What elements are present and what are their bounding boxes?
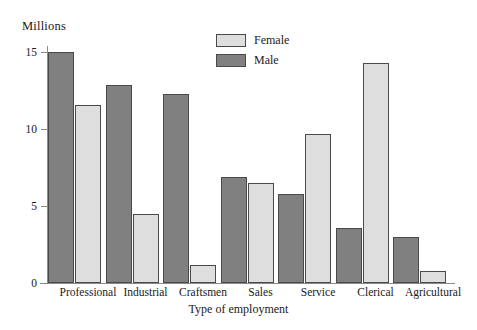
bar-group: Sales — [221, 40, 274, 283]
bar-male — [106, 85, 132, 283]
bar-group: Professional — [48, 40, 101, 283]
y-axis-tick: 0 — [41, 283, 48, 284]
bar-female — [305, 134, 331, 283]
y-axis-title: Millions — [22, 19, 66, 34]
plot-area: 051015ProfessionalIndustrialCraftsmenSal… — [48, 40, 455, 283]
bar-group: Clerical — [336, 40, 389, 283]
legend-item-male: Male — [216, 52, 289, 69]
legend-item-female: Female — [216, 32, 289, 49]
bar-female — [190, 265, 216, 283]
bar-group: Service — [278, 40, 331, 283]
bar-female — [420, 271, 446, 283]
legend-swatch-male — [216, 54, 246, 67]
bar-male — [393, 237, 419, 283]
legend-label-female: Female — [254, 33, 289, 48]
bar-female — [75, 105, 101, 283]
x-axis-title: Type of employment — [0, 302, 477, 317]
bar-male — [221, 177, 247, 283]
legend: Female Male — [216, 32, 289, 72]
y-axis-tick-label: 10 — [26, 121, 38, 137]
bar-female — [133, 214, 159, 283]
bar-male — [336, 228, 362, 283]
bar-group: Agricultural — [393, 40, 446, 283]
bar-male — [278, 194, 304, 283]
y-axis-tick: 15 — [41, 52, 48, 53]
y-axis-tick: 10 — [41, 129, 48, 130]
bar-group: Industrial — [106, 40, 159, 283]
bar-female — [248, 183, 274, 283]
x-axis-category-label: Agricultural — [373, 286, 477, 298]
bar-group: Craftsmen — [163, 40, 216, 283]
legend-label-male: Male — [254, 53, 279, 68]
x-axis-line — [40, 283, 455, 284]
bar-male — [48, 52, 74, 283]
y-axis-tick-label: 15 — [26, 44, 38, 60]
bar-chart: Millions 051015ProfessionalIndustrialCra… — [0, 0, 477, 330]
y-axis-tick: 5 — [41, 206, 48, 207]
bar-female — [363, 63, 389, 283]
bar-male — [163, 94, 189, 283]
legend-swatch-female — [216, 34, 246, 47]
y-axis-tick-label: 5 — [31, 198, 37, 214]
